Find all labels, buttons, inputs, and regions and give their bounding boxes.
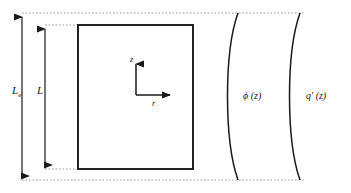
label-extrapolated-length-subscript: e (18, 91, 21, 99)
label-axis-z: z (130, 55, 133, 64)
diagram-svg (0, 0, 351, 193)
guide-lines (22, 13, 305, 180)
coordinate-axes (136, 64, 170, 95)
label-active-length-text: L (37, 84, 43, 96)
figure-canvas: Le L z r ϕ (z) q' (z) (0, 0, 351, 193)
label-heat-rate-curve: q' (z) (306, 91, 326, 101)
label-axis-r: r (152, 99, 155, 108)
fuel-core-rectangle (78, 25, 193, 169)
label-flux-curve: ϕ (z) (243, 91, 261, 101)
profile-curves (228, 13, 301, 180)
heat-rate-curve (290, 13, 301, 180)
dimension-lines (22, 17, 45, 176)
label-active-length: L (37, 85, 43, 96)
flux-curve (228, 13, 239, 180)
label-extrapolated-length: Le (12, 85, 21, 99)
